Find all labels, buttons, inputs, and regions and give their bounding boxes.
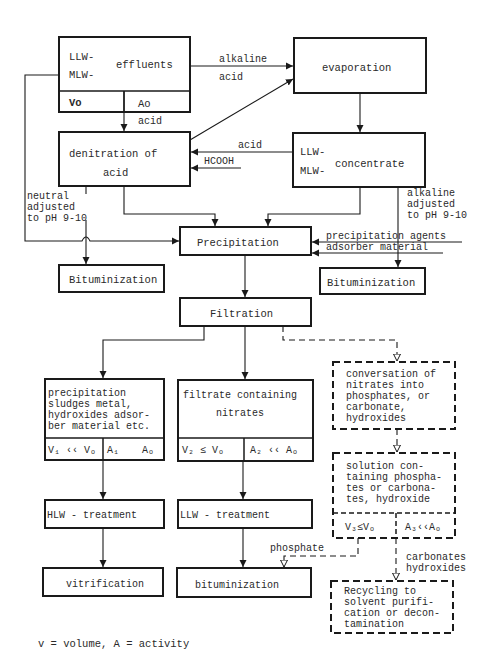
node-concentrate: LLW- MLW- concentrate [293, 133, 425, 187]
conversion-line5: hydroxides [346, 413, 406, 424]
solution-line1: solution con- [346, 461, 424, 472]
edge-label-carbonates-1: carbonates [406, 552, 466, 563]
solution-volume: V₃≤Vₒ [345, 522, 375, 533]
effluents-label: effluents [116, 59, 173, 71]
solution-line2: taining phospha- [346, 472, 442, 483]
sludges-volume: V₁ ‹‹ Vₒ [48, 445, 96, 456]
bituminization-bottom-label: bituminization [195, 580, 279, 591]
node-precipitation: Precipitation [180, 227, 311, 255]
edge-denitration-evaporation [190, 79, 293, 140]
filtrate-line1: filtrate containing [183, 390, 297, 401]
edge-filtration-sludges [103, 326, 204, 378]
denitration-line1: denitration of [69, 148, 157, 160]
denitration-line2: acid [103, 167, 128, 179]
bituminization-right-label: Bituminization [327, 277, 415, 289]
recycling-line4: tamination [344, 619, 404, 630]
llw-treatment-label: LLW - treatment [180, 510, 270, 521]
node-llw-treatment: LLW - treatment [178, 500, 312, 528]
edge-label-neutral-1: neutral [27, 191, 69, 202]
concentrate-label: concentrate [335, 158, 404, 170]
node-evaporation: evaporation [294, 38, 426, 93]
node-filtration: Filtration [180, 298, 311, 326]
node-denitration: denitration of acid [59, 132, 190, 186]
conversion-line3: phosphates, or [346, 391, 430, 402]
node-hlw-treatment: HLW - treatment [45, 500, 164, 528]
hlw-treatment-label: HLW - treatment [47, 510, 137, 521]
sludges-line4: ber material etc. [48, 421, 150, 432]
sludges-line1: precipitation [48, 388, 126, 399]
vitrification-label: vitrification [66, 579, 144, 590]
edge-label-phosphate: phosphate [270, 543, 324, 554]
edge-filtration-conversion [283, 326, 397, 361]
effluents-volume: Vo [69, 97, 82, 109]
edge-label-adsorber: adsorber material [326, 242, 428, 253]
edge-label-alkaline-right-3: to pH 9-10 [407, 210, 467, 221]
filtrate-volume: V₂ ≤ Vₒ [182, 445, 224, 456]
sludges-activity-a1: A₁ [107, 445, 119, 456]
edge-label-carbonates-2: hydroxides [406, 563, 466, 574]
edge-label-alkaline: alkaline [219, 54, 267, 65]
solution-line3: tes or carbona- [346, 483, 436, 494]
node-vitrification: vitrification [43, 568, 163, 596]
edge-concentrate-precipitation [268, 187, 360, 226]
sludges-line2: sludges metal, [48, 399, 132, 410]
node-conversion: conversation of nitrates into phosphates… [333, 362, 455, 429]
node-solution: solution con- taining phospha- tes or ca… [333, 453, 455, 538]
node-bituminization-right: Bituminization [320, 268, 425, 294]
edge-label-acid-top: acid [219, 72, 243, 83]
edge-denitration-precipitation [124, 186, 215, 226]
edge-label-alkaline-right-2: adjusted [407, 199, 455, 210]
effluents-activity: Ao [138, 98, 151, 110]
node-bituminization-bottom: bituminization [177, 568, 311, 597]
precipitation-label: Precipitation [197, 237, 279, 249]
edge-label-acid-back: acid [238, 140, 262, 151]
edge-label-neutral-3: to pH 9-10 [27, 213, 87, 224]
recycling-line3: cation or decon- [344, 608, 440, 619]
conversion-line4: carbonate, [346, 402, 406, 413]
sludges-line3: hydroxides adsor- [48, 410, 150, 421]
filtrate-activity: A₂ ‹‹ Aₒ [250, 445, 298, 456]
edge-label-alkaline-right-1: alkaline [407, 188, 455, 199]
solution-activity: A₃‹‹Aₒ [405, 522, 441, 533]
evaporation-label: evaporation [322, 62, 391, 74]
edge-label-hcooh: HCOOH [204, 156, 234, 167]
solution-line4: tes, hydroxide [346, 494, 430, 505]
conversion-line1: conversation of [346, 369, 436, 380]
edge-label-acid-down: acid [138, 116, 162, 127]
edge-label-neutral-2: adjusted [27, 202, 75, 213]
node-sludges: precipitation sludges metal, hydroxides … [45, 379, 164, 460]
filtration-label: Filtration [210, 308, 273, 320]
legend: v = volume, A = activity [38, 638, 189, 650]
recycling-line1: Recycling to [344, 586, 416, 597]
effluents-prefix-llw: LLW- [69, 51, 94, 63]
sludges-activity-ao: Aₒ [142, 445, 154, 456]
concentrate-prefix-llw: LLW- [300, 146, 325, 158]
node-bituminization-left: Bituminization [59, 265, 164, 292]
concentrate-prefix-mlw: MLW- [300, 165, 325, 177]
filtrate-line2: nitrates [216, 408, 264, 419]
recycling-line2: solvent purifi- [344, 597, 434, 608]
bituminization-left-label: Bituminization [69, 274, 157, 286]
conversion-line2: nitrates into [346, 380, 424, 391]
edge-label-precip-agents: precipitation agents [326, 231, 446, 242]
node-recycling: Recycling to solvent purifi- cation or d… [331, 581, 453, 633]
flow-diagram: LLW- MLW- effluents Vo Ao evaporation de… [0, 0, 483, 661]
effluents-prefix-mlw: MLW- [69, 69, 94, 81]
node-filtrate: filtrate containing nitrates V₂ ≤ Vₒ A₂ … [178, 380, 313, 461]
